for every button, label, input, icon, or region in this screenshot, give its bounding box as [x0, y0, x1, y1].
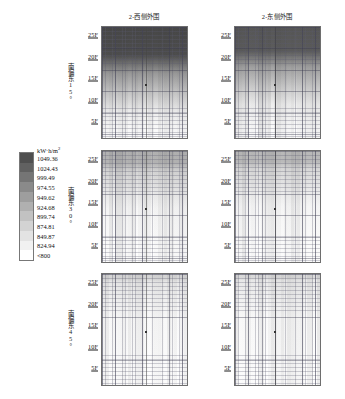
legend-value: 924.68: [37, 203, 55, 210]
floor-tick-label: 20F: [221, 52, 231, 59]
legend-value: 874.81: [37, 222, 55, 229]
floor-tick-label: 20F: [88, 176, 98, 183]
row-label-15deg: 南偏东15°: [67, 63, 73, 102]
legend-value: 849.87: [37, 232, 55, 239]
row-label-30deg: 南偏东30°: [67, 187, 73, 226]
floor-tick-label: 5F: [91, 241, 98, 248]
floor-tick-label: 10F: [221, 95, 231, 102]
legend-swatch: [20, 202, 33, 212]
floor-tick-label: 15F: [221, 321, 231, 328]
legend-swatch: [20, 172, 33, 182]
marker-dot: [274, 84, 276, 86]
legend-value: 1024.43: [37, 164, 58, 171]
column-title-west: 2-西侧外围: [129, 12, 160, 21]
row-label-45deg: 南偏东45°: [67, 310, 73, 349]
floor-tick-label: 15F: [221, 198, 231, 205]
legend-value: 999.49: [37, 174, 55, 181]
floor-tick-label: 5F: [224, 364, 231, 371]
floor-tick-label: 15F: [88, 321, 98, 328]
floor-tick-label: 10F: [221, 219, 231, 226]
floor-tick-label: 5F: [91, 117, 98, 124]
figure-sheet: 2-西侧外围 2-东侧外围 kW·h/m2 1049.361024.43999.…: [0, 0, 345, 399]
floor-tick-label: 25F: [221, 155, 231, 162]
heatmap-panel[interactable]: [234, 150, 321, 263]
legend-unit-exponent: 2: [58, 146, 60, 151]
grid-major: [235, 27, 320, 138]
legend-swatch: [20, 250, 33, 260]
heatmap-panel[interactable]: [101, 273, 188, 386]
legend-swatch: [20, 221, 33, 231]
legend-value: <800: [37, 252, 50, 259]
heatmap-panel[interactable]: [101, 150, 188, 263]
panel-center-line: [146, 27, 147, 138]
legend-value: 974.55: [37, 184, 55, 191]
legend-colorbar: [19, 152, 34, 261]
heatmap-panel[interactable]: [234, 26, 321, 139]
legend-value: 899.74: [37, 213, 55, 220]
panel-center-line: [146, 274, 147, 385]
panel-center-line: [146, 151, 147, 262]
heatmap-panel[interactable]: [101, 26, 188, 139]
floor-tick-label: 5F: [224, 117, 231, 124]
legend-value: 1049.36: [37, 154, 58, 161]
panel-center-line: [275, 274, 276, 385]
floor-tick-label: 25F: [221, 31, 231, 38]
legend-unit-label: kW·h/m2: [37, 146, 60, 154]
legend-value: 949.62: [37, 193, 55, 200]
grid-major: [235, 151, 320, 262]
legend-swatch: [20, 182, 33, 192]
floor-tick-label: 20F: [88, 52, 98, 59]
grid-major: [102, 151, 187, 262]
marker-dot: [274, 331, 276, 333]
floor-tick-label: 5F: [224, 241, 231, 248]
grid-major: [102, 27, 187, 138]
floor-tick-label: 15F: [88, 198, 98, 205]
floor-tick-label: 10F: [88, 342, 98, 349]
floor-tick-label: 15F: [221, 74, 231, 81]
floor-tick-label: 15F: [88, 74, 98, 81]
legend-swatch: [20, 211, 33, 221]
marker-dot: [145, 84, 147, 86]
legend-swatch: [20, 241, 33, 251]
legend-unit-text: kW·h/m: [37, 147, 58, 154]
panel-center-line: [275, 27, 276, 138]
floor-tick-label: 20F: [221, 176, 231, 183]
legend-swatch: [20, 163, 33, 173]
floor-tick-label: 25F: [221, 278, 231, 285]
floor-tick-label: 10F: [88, 95, 98, 102]
heatmap-panel[interactable]: [234, 273, 321, 386]
floor-tick-label: 20F: [221, 299, 231, 306]
floor-tick-label: 10F: [88, 219, 98, 226]
panel-center-line: [275, 151, 276, 262]
legend-value: 824.94: [37, 242, 55, 249]
floor-tick-label: 20F: [88, 299, 98, 306]
column-title-east: 2-东侧外围: [262, 12, 293, 21]
legend-swatch: [20, 231, 33, 241]
marker-dot: [145, 331, 147, 333]
floor-tick-label: 25F: [88, 155, 98, 162]
floor-tick-label: 10F: [221, 342, 231, 349]
grid-major: [235, 274, 320, 385]
legend-swatch: [20, 153, 33, 163]
floor-tick-label: 25F: [88, 278, 98, 285]
legend-swatch: [20, 192, 33, 202]
grid-major: [102, 274, 187, 385]
marker-dot: [274, 208, 276, 210]
floor-tick-label: 5F: [91, 364, 98, 371]
marker-dot: [145, 208, 147, 210]
floor-tick-label: 25F: [88, 31, 98, 38]
